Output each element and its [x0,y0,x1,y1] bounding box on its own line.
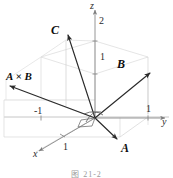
vector-cross-arrow [10,86,95,118]
z-axis-label: z [90,1,94,11]
tick-z-2: 2 [99,16,104,26]
vector-diagram [0,0,173,178]
tick-x-1: 1 [63,142,68,152]
vector-c-arrow [68,35,95,118]
vector-arrows [10,35,150,139]
vector-cross-label: A × B [6,71,32,82]
tick-y-neg-1: -1 [34,106,42,116]
tick-y-1: 1 [146,104,151,114]
axis-tick-marks [41,41,148,137]
y-axis-label: y [162,117,166,127]
figure-container: B A C A × B z y x 2 1 1 -1 1 图 21-2 [0,0,173,178]
vector-b-label: B [117,58,125,70]
vector-c-label: C [51,24,59,36]
construction-grid [4,40,169,152]
vector-a-label: A [121,142,129,154]
tick-z-1: 1 [100,52,105,62]
vector-b-arrow [95,73,150,118]
x-axis-label: x [33,149,37,159]
figure-caption: 图 21-2 [0,168,173,178]
vector-a-arrow [95,118,117,139]
